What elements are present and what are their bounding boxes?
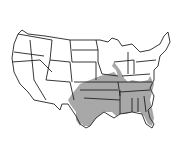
us-range-map: [0, 0, 186, 153]
